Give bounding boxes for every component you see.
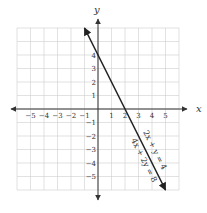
x-tick-label: 5 [163, 112, 167, 120]
x-tick-label: −3 [52, 112, 62, 120]
x-tick-label: 4 [150, 112, 155, 120]
y-tick-label: −1 [86, 119, 96, 127]
line-graph: x y −5−4−3−2−112345−5−4−3−2−11234 2x + y… [0, 0, 207, 213]
x-tick-label: 1 [109, 112, 113, 120]
y-tick-label: −3 [86, 146, 96, 154]
x-tick-label: −5 [25, 112, 35, 120]
y-tick-label: −2 [86, 133, 96, 141]
y-tick-label: 2 [92, 79, 96, 87]
y-axis-label: y [93, 4, 100, 15]
y-tick-label: −4 [86, 160, 97, 168]
axes: x y [11, 4, 202, 200]
y-tick-label: −5 [86, 173, 96, 181]
x-axis-label: x [196, 103, 202, 114]
y-tick-label: 4 [92, 52, 97, 60]
x-tick-label: −2 [66, 112, 76, 120]
y-tick-label: 3 [92, 65, 96, 73]
x-tick-label: −4 [39, 112, 50, 120]
x-tick-label: 3 [136, 112, 140, 120]
y-tick-label: 1 [92, 92, 96, 100]
